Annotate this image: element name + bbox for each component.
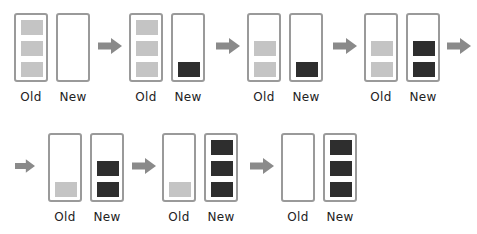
old-label: Old <box>129 90 163 104</box>
new-item <box>211 161 233 176</box>
old-container <box>247 13 281 82</box>
old-item <box>21 41 43 56</box>
old-item <box>21 62 43 77</box>
arrow-right-icon <box>15 158 35 174</box>
old-label: Old <box>247 90 281 104</box>
old-item <box>136 20 158 35</box>
old-item <box>136 41 158 56</box>
new-label: New <box>56 90 90 104</box>
arrow-right-icon <box>216 38 240 54</box>
new-container <box>171 13 205 82</box>
old-label: Old <box>48 210 82 224</box>
old-item <box>21 20 43 35</box>
old-item <box>371 62 393 77</box>
old-item <box>136 62 158 77</box>
new-item <box>330 161 352 176</box>
old-label: Old <box>281 210 315 224</box>
new-label: New <box>90 210 124 224</box>
new-label: New <box>406 90 440 104</box>
old-label: Old <box>364 90 398 104</box>
old-label: Old <box>14 90 48 104</box>
arrow-right-icon <box>333 38 357 54</box>
arrow-right-icon <box>447 38 471 54</box>
old-container <box>129 13 163 82</box>
new-item <box>211 140 233 155</box>
new-container <box>323 133 357 202</box>
arrow-right-icon <box>98 38 122 54</box>
new-label: New <box>323 210 357 224</box>
new-item <box>97 161 119 176</box>
new-item <box>296 62 318 77</box>
old-item <box>169 182 191 197</box>
new-item <box>413 41 435 56</box>
new-label: New <box>289 90 323 104</box>
old-item <box>55 182 77 197</box>
old-container <box>14 13 48 82</box>
new-container <box>289 13 323 82</box>
old-container <box>48 133 82 202</box>
old-container <box>364 13 398 82</box>
new-item <box>211 182 233 197</box>
new-label: New <box>171 90 205 104</box>
new-container <box>204 133 238 202</box>
old-label: Old <box>162 210 196 224</box>
arrow-right-icon <box>132 158 156 174</box>
old-container <box>281 133 315 202</box>
old-container <box>162 133 196 202</box>
new-item <box>413 62 435 77</box>
old-item <box>254 41 276 56</box>
new-label: New <box>204 210 238 224</box>
new-item <box>178 62 200 77</box>
new-item <box>97 182 119 197</box>
new-item <box>330 182 352 197</box>
new-container <box>56 13 90 82</box>
new-container <box>406 13 440 82</box>
old-item <box>254 62 276 77</box>
new-item <box>330 140 352 155</box>
old-item <box>371 41 393 56</box>
arrow-right-icon <box>250 158 274 174</box>
new-container <box>90 133 124 202</box>
